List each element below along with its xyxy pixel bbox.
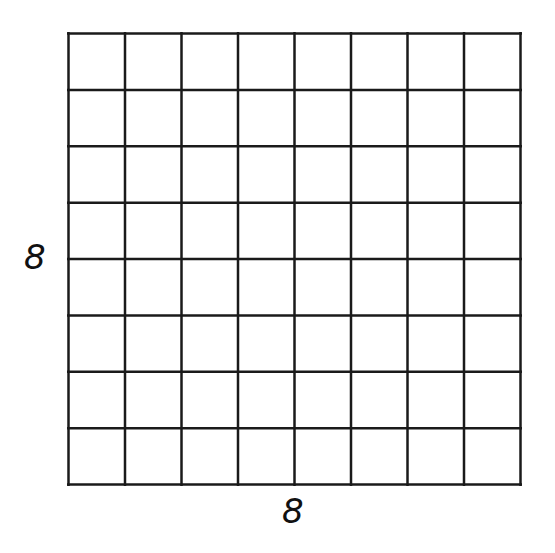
side-length-label-left: 8: [24, 240, 46, 274]
grid-8x8: [67, 32, 522, 486]
side-length-label-bottom: 8: [282, 494, 304, 528]
